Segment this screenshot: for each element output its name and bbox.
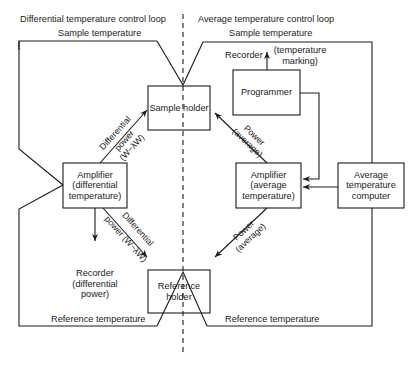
reference-holder: Reference holder <box>148 270 210 313</box>
differential-loop-sample-temp-line <box>19 41 157 50</box>
sample-holder: Sample holder <box>148 86 210 130</box>
recorder-bottom-line2: (differential <box>64 279 126 290</box>
differential-loop-sample-v <box>157 41 203 85</box>
reference-holder-line2: holder <box>166 292 192 303</box>
average-temperature-computer: Average temperature computer <box>338 163 404 208</box>
temperature-marking-line2: marking) <box>272 56 328 67</box>
amp-avg-line1: Amplifier <box>251 170 287 181</box>
amp-avg-line2: (average <box>250 180 286 191</box>
recorder-top-label: Recorder <box>225 50 263 61</box>
amp-diff-line1: Amplifier <box>77 170 113 181</box>
amp-avg-line3: temperature) <box>242 191 295 202</box>
amp-diff-line3: temperature) <box>69 191 122 202</box>
reference-temperature-right-label: Reference temperature <box>225 314 319 325</box>
avg-computer-line1: Average <box>354 170 388 181</box>
reference-temperature-left-label: Reference temperature <box>51 314 145 325</box>
temperature-marking-note: (temperature marking) <box>272 45 328 66</box>
recorder-differential-power: Recorder (differential power) <box>64 268 126 300</box>
amp-diff-line2: (differential <box>72 180 117 191</box>
programmer: Programmer <box>233 70 300 115</box>
differential-loop-title: Differential temperature control loop <box>20 14 166 25</box>
average-loop-bottom <box>207 208 372 326</box>
sample-holder-label: Sample holder <box>149 103 208 114</box>
arrow-programmer-to-avg-amp <box>300 93 319 179</box>
temperature-marking-line1: (temperature <box>272 45 328 56</box>
recorder-bottom-line1: Recorder <box>64 268 126 279</box>
sample-temperature-right-label: Sample temperature <box>229 28 312 39</box>
amplifier-average: Amplifier (average temperature) <box>236 163 301 208</box>
average-loop-title: Average temperature control loop <box>198 14 334 25</box>
differential-loop-left-upper <box>19 41 63 185</box>
avg-computer-line3: computer <box>352 191 390 202</box>
recorder-bottom-line3: power) <box>64 289 126 300</box>
programmer-label: Programmer <box>241 87 292 98</box>
sample-temperature-left-label: Sample temperature <box>58 28 141 39</box>
reference-holder-line1: Reference <box>158 281 200 292</box>
avg-computer-line2: temperature <box>346 180 396 191</box>
